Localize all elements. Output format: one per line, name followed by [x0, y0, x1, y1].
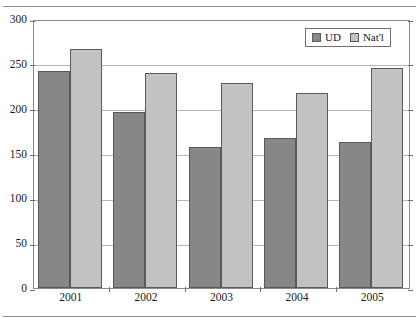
legend-entry-ud: UD [312, 32, 341, 43]
y-tick-label: 0 [0, 283, 27, 295]
bar-ud-2003 [189, 147, 221, 288]
legend-label: UD [325, 32, 341, 43]
y-tick-mark-right [408, 290, 413, 291]
x-tick-label-2005: 2005 [342, 292, 402, 304]
x-tick-label-2003: 2003 [192, 292, 252, 304]
x-tick-label-2002: 2002 [116, 292, 176, 304]
bar-ud-2004 [264, 138, 296, 288]
x-tick-mark [185, 287, 186, 292]
bar-natl-2005 [371, 68, 403, 288]
y-tick-label: 100 [0, 193, 27, 205]
x-tick-mark [109, 287, 110, 292]
y-tick-label: 150 [0, 149, 27, 161]
y-tick-mark [30, 290, 35, 291]
x-tick-mark [336, 287, 337, 292]
bar-natl-2004 [296, 93, 328, 288]
bar-natl-2001 [70, 49, 102, 288]
x-tick-mark [260, 287, 261, 292]
bar-ud-2005 [339, 142, 371, 288]
figure: 050100150200250300 20012002200320042005 … [0, 0, 419, 326]
x-tick-label-2004: 2004 [267, 292, 327, 304]
y-tick-label: 200 [0, 104, 27, 116]
legend-entry-natl: Nat'l [350, 32, 384, 43]
bar-natl-2003 [221, 83, 253, 288]
bar-ud-2002 [113, 112, 145, 288]
y-tick-label: 300 [0, 14, 27, 26]
bar-ud-2001 [38, 71, 70, 288]
plot-area [33, 20, 410, 289]
chart-legend: UDNat'l [305, 28, 391, 47]
y-tick-label: 50 [0, 238, 27, 250]
legend-label: Nat'l [363, 32, 384, 43]
y-tick-label: 250 [0, 59, 27, 71]
bar-natl-2002 [145, 73, 177, 288]
x-tick-label-2001: 2001 [41, 292, 101, 304]
figure-top-rule [3, 6, 416, 7]
bar-series-container [34, 21, 409, 288]
figure-bottom-rule [3, 316, 416, 317]
legend-swatch-natl-icon [350, 33, 359, 42]
legend-swatch-ud-icon [312, 33, 321, 42]
